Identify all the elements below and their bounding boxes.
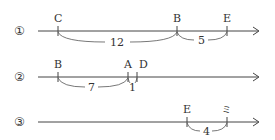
row-3: ③ E ミ 4: [14, 103, 259, 138]
span-label-7: 7: [88, 81, 95, 94]
point-label-B: B: [173, 12, 181, 25]
span-label-1: 1: [129, 81, 136, 94]
span-label-5: 5: [198, 34, 205, 47]
span-label-4: 4: [203, 125, 210, 138]
point-label-E: E: [183, 103, 191, 116]
number-line-diagram: ① C B E 12 5 ② B A D 7 1 ③ E ミ: [0, 0, 275, 140]
row-index-3: ③: [14, 115, 25, 129]
row-1: ① C B E 12 5: [14, 12, 259, 49]
point-label-D: D: [139, 58, 148, 71]
row-2: ② B A D 7 1: [14, 58, 259, 94]
row-index-1: ①: [14, 24, 25, 38]
point-label-A: A: [123, 58, 133, 71]
point-label-B: B: [54, 58, 62, 71]
span-label-12: 12: [110, 36, 124, 49]
point-label-mi: ミ: [222, 105, 231, 115]
point-label-E: E: [223, 12, 231, 25]
point-label-C: C: [54, 12, 62, 25]
row-index-2: ②: [14, 70, 25, 84]
